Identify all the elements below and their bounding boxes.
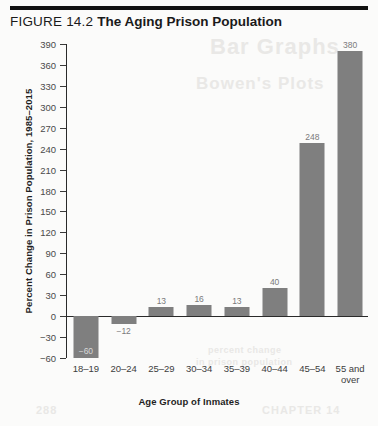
bar[interactable] bbox=[300, 143, 325, 316]
bar-slot: 248 bbox=[294, 44, 332, 358]
y-axis-tick bbox=[60, 295, 66, 296]
chart-plot-area: Percent Change in Prison Population, 198… bbox=[66, 44, 368, 358]
y-axis-tick-label: 120 bbox=[40, 227, 56, 238]
y-axis-tick bbox=[60, 170, 66, 171]
y-axis-tick-label: 180 bbox=[40, 185, 56, 196]
y-axis-title: Percent Change in Prison Population, 198… bbox=[23, 89, 34, 314]
y-axis-tick bbox=[60, 211, 66, 212]
bar-value-label: 248 bbox=[305, 132, 319, 142]
figure-title: FIGURE 14.2The Aging Prison Population bbox=[10, 14, 282, 29]
y-axis-tick-label: 90 bbox=[45, 248, 56, 259]
y-axis-tick-label: 270 bbox=[40, 122, 56, 133]
x-axis-category-label: 55 and over bbox=[331, 364, 369, 385]
y-axis-tick-label: 150 bbox=[40, 206, 56, 217]
bar-slot: −12 bbox=[105, 44, 143, 358]
bar-series: −60−1213161340248380 bbox=[67, 44, 368, 358]
y-axis-tick bbox=[60, 191, 66, 192]
bar-slot: 16 bbox=[180, 44, 218, 358]
bar-slot: −60 bbox=[67, 44, 105, 358]
bar[interactable] bbox=[187, 305, 212, 316]
y-axis-tick bbox=[60, 86, 66, 87]
x-axis-category-label: 18–19 bbox=[67, 364, 105, 375]
y-axis-tick-label: 330 bbox=[40, 80, 56, 91]
figure-title-text: The Aging Prison Population bbox=[97, 14, 282, 29]
bar-slot: 40 bbox=[256, 44, 294, 358]
y-axis-tick bbox=[60, 232, 66, 233]
bar[interactable] bbox=[224, 307, 249, 316]
x-axis-category-label: 30–34 bbox=[180, 364, 218, 375]
y-axis-tick bbox=[60, 149, 66, 150]
figure-container: Bar Graphs Bowen's Plots percent change … bbox=[0, 0, 378, 426]
bar-value-label: 380 bbox=[343, 40, 357, 50]
y-axis-tick-label: 240 bbox=[40, 143, 56, 154]
y-axis-tick bbox=[60, 107, 66, 108]
bar[interactable] bbox=[111, 316, 136, 324]
y-axis-tick bbox=[60, 253, 66, 254]
x-axis-category-label: 40–44 bbox=[256, 364, 294, 375]
figure-number: FIGURE 14.2 bbox=[10, 14, 93, 29]
y-axis-tick-label: 30 bbox=[45, 290, 56, 301]
bar-slot: 380 bbox=[331, 44, 369, 358]
y-axis-tick-label: 390 bbox=[40, 39, 56, 50]
x-axis-title: Age Group of Inmates bbox=[0, 396, 378, 407]
bar[interactable] bbox=[262, 288, 287, 316]
bar-slot: 13 bbox=[218, 44, 256, 358]
bar-value-label: 16 bbox=[194, 294, 203, 304]
x-axis-categories: 18–1920–2425–2930–3435–3940–4445–5455 an… bbox=[67, 364, 368, 390]
bar[interactable] bbox=[338, 51, 363, 316]
y-axis-tick bbox=[60, 65, 66, 66]
y-axis-tick bbox=[60, 128, 66, 129]
y-axis-tick-label: 210 bbox=[40, 164, 56, 175]
y-axis-tick-label: 0 bbox=[51, 311, 56, 322]
bar-value-label: −60 bbox=[79, 346, 93, 356]
y-axis-tick bbox=[60, 44, 66, 45]
bar-value-label: −12 bbox=[116, 326, 130, 336]
x-axis-category-label: 20–24 bbox=[105, 364, 143, 375]
x-axis-category-label: 35–39 bbox=[218, 364, 256, 375]
header-rule bbox=[10, 6, 368, 10]
y-axis-tick bbox=[60, 358, 66, 359]
y-axis-tick bbox=[60, 274, 66, 275]
x-axis-category-label: 45–54 bbox=[294, 364, 332, 375]
bar-value-label: 40 bbox=[270, 277, 279, 287]
y-axis-tick-label: −30 bbox=[40, 332, 56, 343]
y-axis-tick bbox=[60, 337, 66, 338]
y-axis-tick-label: −60 bbox=[40, 353, 56, 364]
y-axis-tick-label: 60 bbox=[45, 269, 56, 280]
bar-value-label: 13 bbox=[157, 296, 166, 306]
y-axis-tick-label: 300 bbox=[40, 101, 56, 112]
bar-value-label: 13 bbox=[232, 296, 241, 306]
bar[interactable] bbox=[149, 307, 174, 316]
x-axis-category-label: 25–29 bbox=[143, 364, 181, 375]
y-axis-tick-label: 360 bbox=[40, 59, 56, 70]
bar-slot: 13 bbox=[143, 44, 181, 358]
